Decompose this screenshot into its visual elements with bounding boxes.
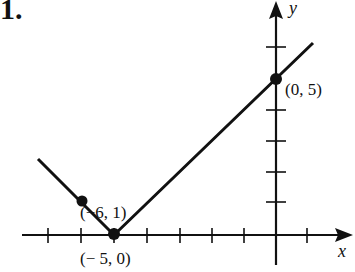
point-0-5 [270, 73, 282, 85]
point-label-0-5: (0, 5) [285, 80, 322, 99]
function-graph: y x (−6, 1) (0, 5) (− 5, 0) [0, 0, 355, 272]
y-axis-label: y [287, 0, 297, 18]
point-label-neg5-0: (− 5, 0) [80, 249, 131, 268]
x-axis-label: x [337, 241, 346, 261]
point-label-neg6-1: (−6, 1) [80, 203, 126, 222]
point-neg5-0 [108, 228, 120, 240]
